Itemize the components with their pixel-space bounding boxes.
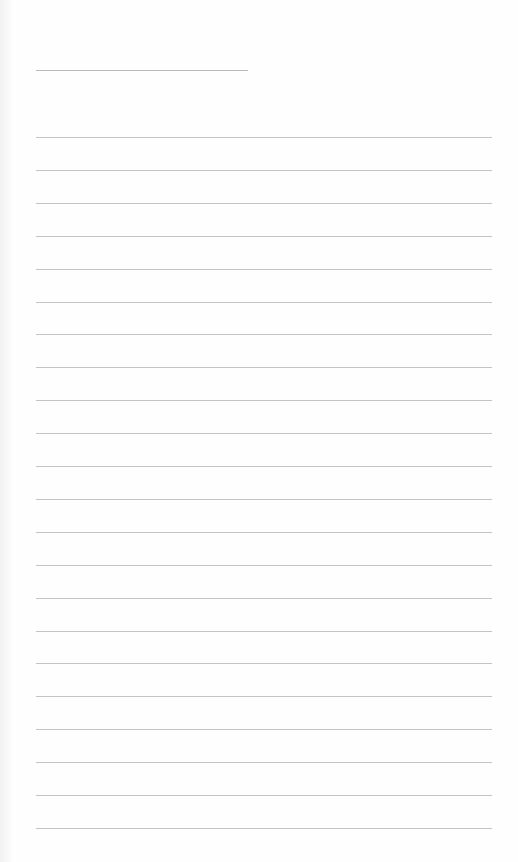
ruled-line (36, 729, 492, 730)
ruled-line (36, 400, 492, 401)
ruled-line (36, 170, 492, 171)
title-line (36, 70, 248, 71)
ruled-line (36, 631, 492, 632)
ruled-line (36, 532, 492, 533)
ruled-line (36, 663, 492, 664)
ruled-line (36, 137, 492, 138)
ruled-line (36, 302, 492, 303)
ruled-line (36, 334, 492, 335)
ruled-line (36, 269, 492, 270)
ruled-line (36, 499, 492, 500)
ruled-line (36, 367, 492, 368)
ruled-line (36, 466, 492, 467)
ruled-line (36, 598, 492, 599)
ruled-line (36, 795, 492, 796)
ruled-line (36, 696, 492, 697)
ruled-line (36, 762, 492, 763)
ruled-line (36, 828, 492, 829)
page-edge-shadow (0, 0, 14, 862)
ruled-line (36, 433, 492, 434)
lined-paper-page (0, 0, 518, 862)
ruled-line (36, 236, 492, 237)
ruled-line (36, 203, 492, 204)
ruled-line (36, 565, 492, 566)
